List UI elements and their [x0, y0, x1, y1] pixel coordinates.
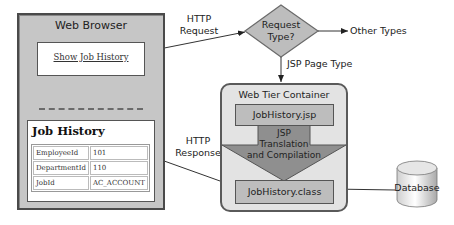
- link-panel: Show Job History: [37, 42, 145, 76]
- table-key: DepartmentId: [33, 161, 89, 175]
- label-line: Type?: [253, 31, 309, 43]
- class-file-box: JobHistory.class: [235, 180, 334, 204]
- job-history-table: EmployeeId 101 DepartmentId 110 JobId AC…: [31, 144, 150, 192]
- jsp-page-type-label: JSP Page Type: [287, 58, 352, 70]
- table-value: AC_ACCOUNT: [90, 176, 148, 190]
- label-line: HTTP: [169, 135, 227, 147]
- browser-title: Web Browser: [19, 19, 163, 32]
- table-row: EmployeeId 101: [33, 146, 148, 160]
- label-line: JSP: [242, 128, 326, 139]
- web-browser-frame: Web Browser Show Job History Job History…: [17, 13, 165, 210]
- label-line: Request: [253, 19, 309, 31]
- translation-label: JSP Translation and Compilation: [242, 128, 326, 161]
- job-history-panel: Job History EmployeeId 101 DepartmentId …: [27, 120, 155, 202]
- table-key: EmployeeId: [33, 146, 89, 160]
- job-history-title: Job History: [32, 124, 105, 138]
- label-line: HTTP: [174, 13, 224, 25]
- divider: [39, 108, 143, 110]
- database-label: Database: [393, 182, 441, 194]
- label-line: and Compilation: [242, 150, 326, 161]
- web-tier-container: Web Tier Container JobHistory.jsp JSP Tr…: [220, 83, 348, 212]
- label-line: Request: [174, 25, 224, 37]
- http-request-label: HTTP Request: [174, 13, 224, 37]
- label-line: Translation: [242, 139, 326, 150]
- show-job-history-link[interactable]: Show Job History: [38, 52, 144, 62]
- table-row: JobId AC_ACCOUNT: [33, 176, 148, 190]
- other-types-label: Other Types: [350, 25, 407, 37]
- label-line: Response: [169, 147, 227, 159]
- table-row: DepartmentId 110: [33, 161, 148, 175]
- http-response-label: HTTP Response: [169, 135, 227, 159]
- table-value: 101: [90, 146, 148, 160]
- decision-label: Request Type?: [253, 19, 309, 43]
- table-value: 110: [90, 161, 148, 175]
- table-key: JobId: [33, 176, 89, 190]
- jsp-file-box: JobHistory.jsp: [235, 104, 334, 126]
